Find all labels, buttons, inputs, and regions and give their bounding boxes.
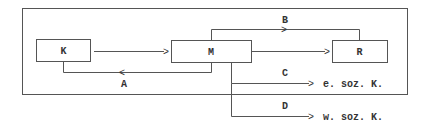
node-m-label: M <box>208 47 214 58</box>
edge-c: > C e. soz. K. <box>232 62 384 90</box>
node-k: K <box>37 40 91 62</box>
node-r-label: R <box>356 47 362 58</box>
arrowhead-icon: > <box>308 112 314 123</box>
target-c-label: e. soz. K. <box>323 79 383 90</box>
node-r: R <box>333 41 388 63</box>
edge-d-label: D <box>282 101 288 112</box>
edge-b-label: B <box>282 15 288 26</box>
edge-a: < A <box>64 61 212 90</box>
edge-c-label: C <box>282 68 288 79</box>
target-d-label: w. soz. K. <box>323 112 383 123</box>
arrowhead-icon: > <box>324 47 330 58</box>
arrowhead-icon: > <box>308 79 314 90</box>
arrowhead-icon: > <box>163 47 169 58</box>
arrowhead-left-icon: < <box>119 68 125 79</box>
edge-k-to-m: > <box>94 47 169 58</box>
edge-a-label: A <box>121 79 127 90</box>
arrowhead-icon: > <box>281 25 287 36</box>
node-m: M <box>172 41 252 63</box>
edge-b: > B <box>212 15 360 40</box>
node-k-label: K <box>60 46 66 57</box>
edge-m-to-r: > <box>251 47 330 58</box>
diagram-canvas: K M R > < A > B > > C e. soz. K. <box>0 0 428 127</box>
